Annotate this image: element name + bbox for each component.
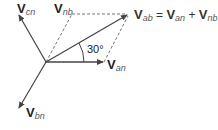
van-label: Van bbox=[107, 58, 126, 73]
angle-label: 30° bbox=[87, 44, 104, 55]
vcn-label: Vcn bbox=[17, 2, 35, 17]
vcn-vector bbox=[19, 15, 46, 62]
angle-arc bbox=[79, 43, 84, 62]
vnb-label: Vnb bbox=[54, 2, 73, 17]
vab-equation: Vab = Van + Vnb bbox=[134, 8, 217, 23]
vbn-label: Vbn bbox=[26, 106, 45, 121]
right-dashed-line bbox=[104, 16, 128, 62]
vbn-vector bbox=[19, 62, 46, 108]
